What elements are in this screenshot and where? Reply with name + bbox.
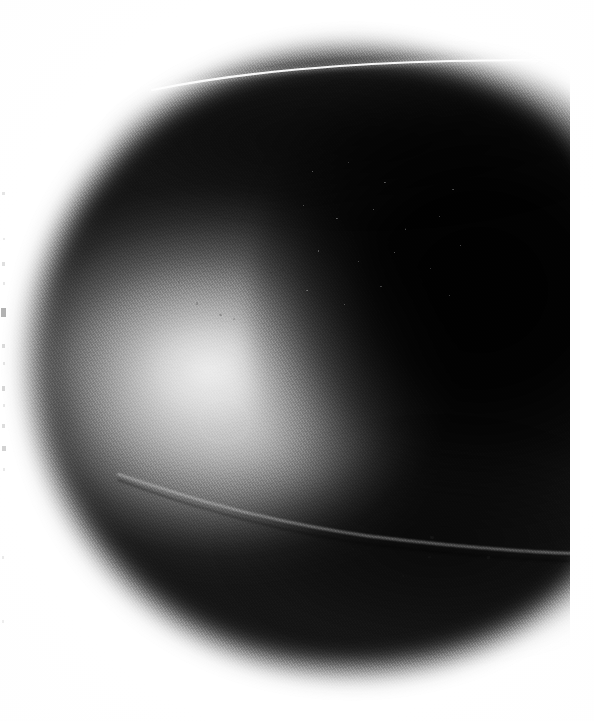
right-page-margin: [570, 0, 594, 721]
dust-speck: [196, 302, 198, 305]
circular-surface-mark: [198, 398, 250, 444]
left-edge-mark: [3, 468, 5, 471]
dust-speck: [233, 318, 235, 320]
photograph-page: [0, 0, 594, 721]
left-edge-mark: [2, 556, 4, 559]
left-edge-marks: [0, 0, 10, 721]
top-contour-seam: [150, 54, 570, 94]
left-edge-mark: [2, 620, 4, 623]
left-edge-mark: [2, 344, 5, 348]
dust-speck: [281, 268, 284, 270]
speckle-texture-patch: [286, 150, 476, 330]
left-edge-mark: [2, 424, 5, 428]
left-edge-mark: [2, 446, 6, 451]
left-edge-mark: [1, 308, 6, 317]
dust-speck: [487, 556, 490, 559]
dust-speck: [178, 281, 180, 283]
dust-speck: [270, 272, 272, 274]
left-edge-mark: [3, 238, 5, 240]
left-edge-mark: [3, 362, 5, 365]
dust-speck: [523, 550, 526, 552]
lower-curved-line: [118, 450, 570, 580]
dust-speck: [430, 536, 434, 539]
dust-speck: [219, 314, 222, 316]
dust-speck: [352, 548, 354, 550]
left-edge-mark: [2, 192, 5, 195]
left-edge-mark: [2, 262, 5, 266]
object-crop-frame: [0, 0, 570, 721]
left-edge-mark: [3, 404, 5, 407]
dust-speck: [428, 556, 431, 558]
photographic-plate: [0, 0, 594, 721]
left-edge-mark: [2, 386, 5, 391]
dust-speck: [402, 575, 404, 577]
left-edge-mark: [3, 282, 5, 285]
